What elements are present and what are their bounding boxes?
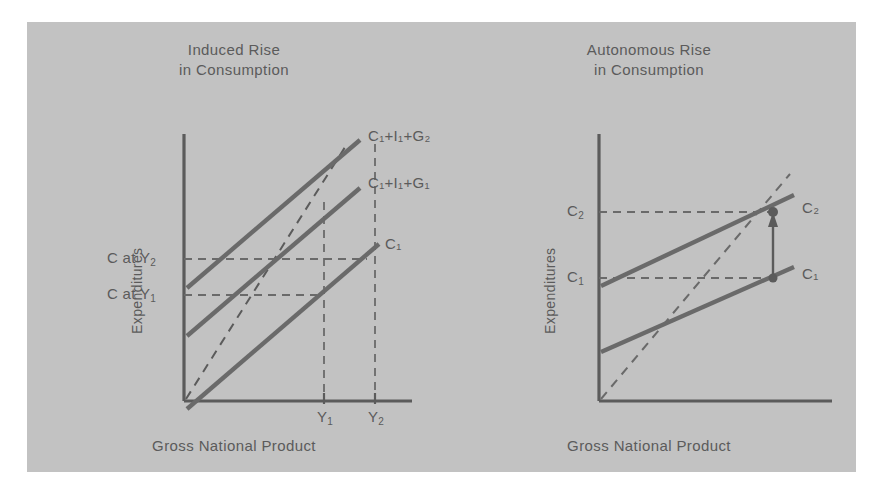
reference-45-line [601,174,790,399]
value-label-c2-text: C [567,202,578,219]
x-tick-label-y2-sub: 2 [378,416,384,427]
data-point-c1 [769,274,778,283]
curve-c1-i1-g1 [187,188,360,336]
value-label-c-at-y2: C at Y2 [107,249,156,266]
reference-45-line [186,144,347,399]
x-tick-label-y1-sub: 1 [327,416,333,427]
curve-c1 [187,244,379,409]
x-tick-label-y2: Y2 [368,408,384,425]
curve-label-c1-i1-g1: C₁+I₁+G₁ [368,174,430,191]
value-label-c-at-y2-sub: 2 [150,257,156,268]
curve-c2 [601,195,794,286]
plot-area-induced [27,22,441,472]
figure-panel: Induced Rise in Consumption Expenditures [27,22,856,472]
data-point-c2 [768,207,778,217]
value-label-c1: C1 [567,268,584,285]
value-label-c1-sub: 1 [578,276,584,287]
curve-c1-i1-g2 [187,140,360,288]
value-label-c-at-y1-sub: 1 [150,293,156,304]
curve-label-c1: C₁ [802,265,819,282]
x-axis-title-autonomous: Gross National Product [442,437,856,454]
curve-c1 [601,267,794,352]
x-tick-label-y2-text: Y [368,408,378,425]
x-axis-title-induced: Gross National Product [27,437,441,454]
chart-autonomous-rise: Autonomous Rise in Consumption Expenditu… [442,22,856,472]
value-label-c-at-y1: C at Y1 [107,285,156,302]
chart-induced-rise: Induced Rise in Consumption Expenditures [27,22,441,472]
curve-label-c1: C₁ [385,235,402,252]
x-tick-label-y1-text: Y [317,408,327,425]
plot-area-autonomous [442,22,856,472]
x-tick-label-y1: Y1 [317,408,333,425]
value-label-c1-text: C [567,268,578,285]
curve-label-c1-i1-g2: C₁+I₁+G₂ [368,127,431,144]
value-label-c-at-y2-text: C at Y [107,249,150,266]
value-label-c2-sub: 2 [578,210,584,221]
value-label-c-at-y1-text: C at Y [107,285,150,302]
curve-label-c2: C₂ [802,199,819,216]
value-label-c2: C2 [567,202,584,219]
figure-root: Induced Rise in Consumption Expenditures [0,0,882,500]
